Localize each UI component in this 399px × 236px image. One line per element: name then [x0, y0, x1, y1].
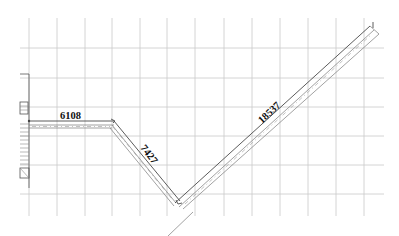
dimension-label-6108: 6108 [60, 110, 81, 121]
node-start-icon[interactable] [28, 120, 30, 122]
cad-drawing-canvas[interactable]: 6108 7427 18537 [0, 0, 399, 236]
